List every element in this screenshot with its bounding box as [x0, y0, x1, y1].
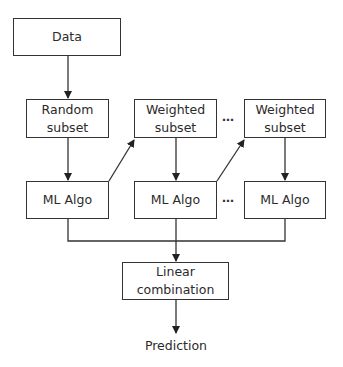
node-weighted-subset-1: Weighted subset: [134, 99, 217, 138]
edge-ml1-weighted1: [109, 140, 134, 181]
node-label: Random: [42, 101, 94, 119]
node-ml-algo-n: ML Algo: [244, 181, 326, 219]
node-label: Weighted: [255, 101, 314, 119]
node-label: combination: [137, 281, 215, 299]
node-label: ML Algo: [43, 191, 92, 209]
node-label: Weighted: [146, 101, 205, 119]
node-ml-algo-1: ML Algo: [26, 181, 109, 219]
node-label: ML Algo: [151, 191, 200, 209]
node-prediction: Prediction: [126, 338, 226, 353]
node-label: ML Algo: [260, 191, 309, 209]
node-label: Data: [52, 28, 82, 46]
node-ml-algo-2: ML Algo: [134, 181, 217, 219]
node-data: Data: [13, 18, 121, 56]
ellipsis-bottom: …: [222, 191, 234, 205]
node-label: subset: [264, 119, 305, 137]
ensemble-diagram: Data Random subset Weighted subset … Wei…: [0, 0, 343, 367]
node-label: subset: [47, 119, 88, 137]
node-random-subset: Random subset: [26, 99, 109, 138]
node-weighted-subset-n: Weighted subset: [244, 99, 326, 138]
ellipsis-top: …: [222, 110, 234, 124]
node-linear-combination: Linear combination: [122, 262, 229, 300]
edge-ml2-weightedn: [217, 140, 244, 181]
node-label: subset: [155, 119, 196, 137]
node-label: Linear: [156, 263, 195, 281]
